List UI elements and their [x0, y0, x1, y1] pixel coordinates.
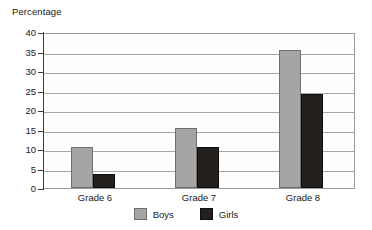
y-tick-label: 35 — [0, 48, 36, 58]
legend-label-boys: Boys — [153, 209, 174, 220]
chart-legend: Boys Girls — [0, 208, 372, 220]
y-tick-mark — [38, 92, 43, 93]
y-tick-mark — [38, 131, 43, 132]
legend-item-girls: Girls — [200, 208, 239, 220]
gridline — [44, 54, 354, 55]
y-tick-label: 30 — [0, 67, 36, 77]
bar-girls-grade-8 — [301, 94, 323, 188]
y-tick-mark — [38, 189, 43, 190]
y-axis-line — [43, 32, 44, 190]
x-axis-label-grade-8: Grade 8 — [258, 192, 348, 203]
bar-girls-grade-6 — [93, 174, 115, 188]
y-tick-label: 0 — [0, 184, 36, 194]
bar-boys-grade-7 — [175, 128, 197, 188]
y-tick-label: 40 — [0, 28, 36, 38]
gridline — [44, 93, 354, 94]
chart-title: Percentage — [12, 6, 62, 17]
y-tick-mark — [38, 170, 43, 171]
y-tick-mark — [38, 111, 43, 112]
y-tick-label: 20 — [0, 106, 36, 116]
y-tick-mark — [38, 150, 43, 151]
y-tick-mark — [38, 53, 43, 54]
legend-item-boys: Boys — [134, 208, 174, 220]
bar-boys-grade-6 — [71, 147, 93, 188]
y-tick-label: 5 — [0, 165, 36, 175]
legend-label-girls: Girls — [219, 209, 239, 220]
y-tick-label: 25 — [0, 87, 36, 97]
y-tick-label: 10 — [0, 145, 36, 155]
bar-chart: Percentage 0510152025303540 Grade 6Grade… — [0, 0, 372, 230]
y-tick-mark — [38, 33, 43, 34]
legend-swatch-boys-icon — [134, 208, 147, 220]
legend-swatch-girls-icon — [200, 208, 213, 220]
bar-boys-grade-8 — [279, 50, 301, 188]
y-tick-label: 15 — [0, 126, 36, 136]
plot-area — [43, 33, 355, 189]
y-tick-mark — [38, 72, 43, 73]
x-axis-label-grade-6: Grade 6 — [50, 192, 140, 203]
gridline — [44, 73, 354, 74]
x-axis-label-grade-7: Grade 7 — [154, 192, 244, 203]
bar-girls-grade-7 — [197, 147, 219, 188]
